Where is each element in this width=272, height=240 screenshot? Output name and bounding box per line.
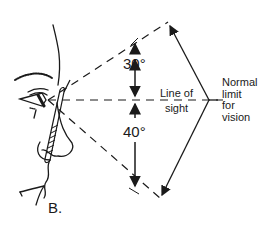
face-profile-icon bbox=[15, 25, 73, 205]
lower-angle-label: 40° bbox=[123, 124, 146, 140]
normal-limit-label: Normal limit for vision bbox=[222, 77, 257, 123]
panel-label: B. bbox=[48, 200, 62, 216]
upper-angle-label: 30° bbox=[123, 56, 146, 72]
line-of-sight-label: Line of sight bbox=[160, 88, 193, 114]
lens-icon bbox=[45, 80, 70, 163]
